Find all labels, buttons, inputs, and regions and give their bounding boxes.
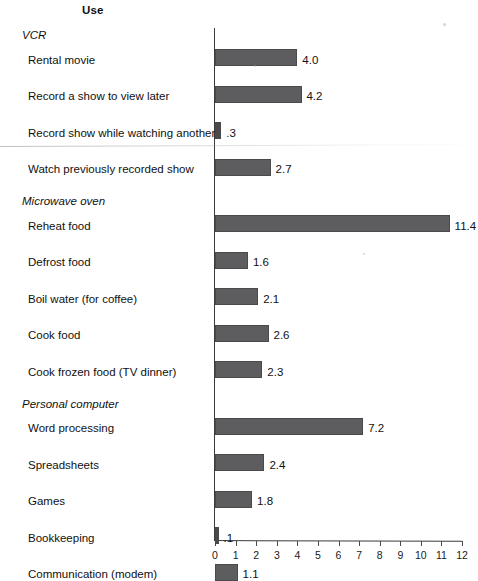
bar-label: Cook food bbox=[28, 329, 80, 341]
bar-label: Games bbox=[28, 495, 65, 507]
x-axis-tick-label: 0 bbox=[212, 549, 218, 561]
bar bbox=[215, 86, 302, 103]
bar-value-label: 7.2 bbox=[368, 422, 384, 434]
bar-label: Communication (modem) bbox=[28, 568, 157, 580]
bar bbox=[215, 288, 258, 305]
x-axis-tick bbox=[297, 541, 298, 546]
bar bbox=[215, 527, 219, 544]
x-axis-tick-label: 10 bbox=[415, 549, 427, 561]
x-axis-tick bbox=[236, 541, 237, 546]
x-axis-tick bbox=[441, 541, 442, 546]
scan-artifact-line bbox=[0, 144, 478, 147]
bar bbox=[215, 159, 271, 176]
bar-value-label: 11.4 bbox=[455, 220, 477, 232]
x-axis-tick-label: 8 bbox=[377, 549, 383, 561]
bar-value-label: 4.2 bbox=[306, 90, 322, 102]
x-axis-tick-label: 11 bbox=[436, 549, 447, 561]
x-axis-tick-label: 2 bbox=[253, 549, 259, 561]
bar-label: Bookkeeping bbox=[28, 532, 95, 544]
x-axis-tick bbox=[339, 541, 340, 546]
bar-label: Record a show to view later bbox=[28, 90, 169, 102]
x-axis-tick bbox=[359, 541, 360, 546]
bar-label: Watch previously recorded show bbox=[28, 163, 194, 175]
bar-label: Spreadsheets bbox=[28, 459, 99, 471]
bar-value-label: 2.3 bbox=[267, 366, 283, 378]
group-label: Personal computer bbox=[22, 398, 119, 410]
bar-label: Cook frozen food (TV dinner) bbox=[28, 366, 176, 378]
x-axis-tick bbox=[400, 541, 401, 546]
x-axis-tick bbox=[462, 541, 463, 546]
bar-value-label: 1.8 bbox=[257, 495, 273, 507]
x-axis-tick-label: 5 bbox=[315, 549, 321, 561]
bar-value-label: 2.6 bbox=[274, 329, 290, 341]
bar bbox=[215, 491, 252, 508]
scan-speck bbox=[443, 23, 446, 26]
bar-value-label: 2.7 bbox=[276, 163, 292, 175]
bar bbox=[215, 215, 450, 232]
x-axis-tick bbox=[277, 541, 278, 546]
bar-label: Reheat food bbox=[28, 220, 91, 232]
bar-value-label: 1.1 bbox=[243, 568, 259, 580]
bar-value-label: 2.1 bbox=[263, 293, 279, 305]
group-label: VCR bbox=[22, 29, 46, 41]
x-axis-tick-label: 9 bbox=[397, 549, 403, 561]
bar-value-label: 1.6 bbox=[253, 256, 269, 268]
group-label: Microwave oven bbox=[22, 195, 105, 207]
x-axis-tick-label: 1 bbox=[233, 549, 239, 561]
bar-label: Record show while watching another bbox=[28, 127, 215, 139]
bar bbox=[215, 325, 269, 342]
bar-label: Word processing bbox=[28, 422, 114, 434]
scan-speck bbox=[363, 253, 365, 255]
x-axis-tick bbox=[318, 541, 319, 546]
bar-value-label: .1 bbox=[224, 532, 234, 544]
x-axis-tick-label: 3 bbox=[274, 549, 280, 561]
bar bbox=[215, 49, 297, 66]
bar-value-label: 4.0 bbox=[302, 54, 318, 66]
bar bbox=[215, 564, 238, 581]
bar bbox=[215, 418, 363, 435]
x-axis-tick bbox=[380, 541, 381, 546]
bar bbox=[215, 252, 248, 269]
x-axis-tick-label: 7 bbox=[356, 549, 362, 561]
x-axis-tick-label: 4 bbox=[294, 549, 300, 561]
bar bbox=[215, 454, 264, 471]
bar-value-label: 2.4 bbox=[269, 459, 285, 471]
bar bbox=[215, 122, 221, 139]
bar-label: Boil water (for coffee) bbox=[28, 293, 137, 305]
x-axis-tick-label: 6 bbox=[336, 549, 342, 561]
bar bbox=[215, 361, 262, 378]
x-axis-tick bbox=[256, 541, 257, 546]
column-header-use: Use bbox=[82, 4, 103, 16]
bar-value-label: .3 bbox=[226, 127, 236, 139]
bar-label: Rental movie bbox=[28, 54, 95, 66]
scan-speck bbox=[254, 65, 256, 67]
x-axis-tick-label: 12 bbox=[456, 549, 468, 561]
x-axis-tick bbox=[421, 541, 422, 546]
bar-label: Defrost food bbox=[28, 256, 91, 268]
